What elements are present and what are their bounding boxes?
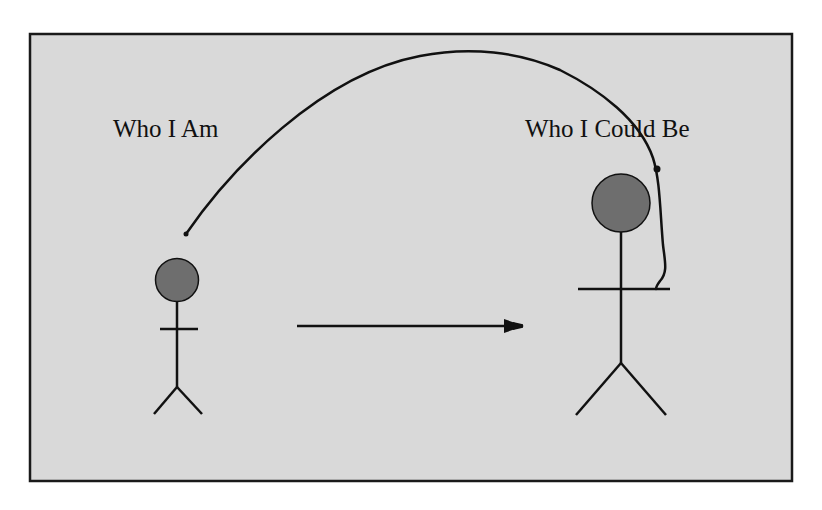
diagram-svg [0, 0, 822, 510]
label-who-i-could-be: Who I Could Be [525, 116, 690, 141]
curve-start-dot [184, 232, 189, 237]
head-current-self [156, 259, 199, 302]
curve-knot-dot [654, 166, 661, 173]
diagram-canvas: Who I Am Who I Could Be [0, 0, 822, 510]
head-potential-self [592, 174, 650, 232]
diagram-frame [30, 34, 792, 481]
label-who-i-am: Who I Am [113, 116, 219, 141]
